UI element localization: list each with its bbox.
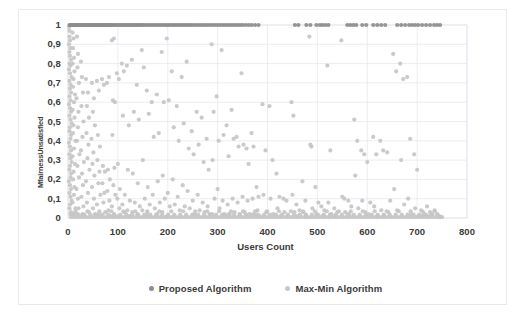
x-tick-label: 100 [98, 226, 138, 237]
data-point [72, 116, 76, 120]
data-point [235, 200, 239, 204]
data-point [175, 104, 179, 108]
data-point [256, 212, 260, 216]
data-point [154, 212, 158, 216]
data-point [76, 110, 80, 114]
data-point [325, 209, 329, 213]
data-point [388, 212, 392, 216]
x-tick-label: 600 [347, 226, 387, 237]
data-point [267, 104, 271, 108]
data-point [337, 209, 341, 213]
data-point [100, 212, 104, 216]
data-point [76, 125, 80, 129]
data-point [265, 209, 269, 213]
data-point [217, 139, 221, 143]
data-point [166, 212, 170, 216]
data-point [250, 212, 254, 216]
data-point [208, 212, 212, 216]
data-point [173, 202, 177, 206]
data-point [207, 168, 211, 172]
data-point [355, 139, 359, 143]
data-point [274, 172, 278, 176]
data-point [178, 212, 182, 216]
data-point [181, 209, 185, 213]
data-point [130, 58, 134, 62]
data-point [75, 164, 79, 168]
data-point [69, 90, 73, 94]
data-point [364, 212, 368, 216]
data-point [359, 148, 363, 152]
data-point [406, 197, 410, 201]
data-point [101, 164, 105, 168]
data-point [400, 212, 404, 216]
data-point [77, 175, 81, 179]
legend-item[interactable]: Proposed Algorithm [149, 283, 252, 294]
data-point [399, 158, 403, 162]
data-point [420, 23, 424, 27]
data-point [117, 206, 121, 210]
data-point [107, 199, 111, 203]
data-point [95, 158, 99, 162]
data-point [432, 209, 436, 213]
data-point [216, 187, 220, 191]
data-point [79, 60, 83, 64]
data-point [70, 212, 74, 216]
data-point [166, 191, 170, 195]
data-point [84, 179, 88, 183]
data-point [256, 195, 260, 199]
data-point [100, 77, 104, 81]
data-point [81, 119, 85, 123]
data-point [72, 69, 76, 73]
data-point [188, 206, 192, 210]
data-point [296, 23, 300, 27]
data-point [112, 166, 116, 170]
data-point [70, 62, 74, 66]
data-point [132, 110, 136, 114]
data-point [238, 212, 242, 216]
data-point [157, 131, 161, 135]
data-point [101, 200, 105, 204]
data-point [68, 54, 72, 58]
data-point [71, 77, 75, 81]
data-point [81, 204, 85, 208]
data-point [246, 162, 250, 166]
data-point [113, 193, 117, 197]
data-point [67, 179, 71, 183]
data-point [435, 212, 439, 216]
data-point [77, 81, 81, 85]
data-point [364, 23, 368, 27]
data-point [84, 77, 88, 81]
legend-item[interactable]: Max-Min Algorithm [285, 283, 382, 294]
data-point [147, 112, 151, 116]
data-point [328, 148, 332, 152]
data-point [105, 189, 109, 193]
data-point [192, 152, 196, 156]
data-point [388, 199, 392, 203]
data-point [71, 170, 75, 174]
x-tick-label: 700 [397, 226, 437, 237]
data-point [397, 209, 401, 213]
data-point [254, 185, 258, 189]
data-point [376, 212, 380, 216]
data-point [160, 50, 164, 54]
data-point [79, 104, 83, 108]
data-point [394, 69, 398, 73]
data-point [241, 143, 245, 147]
data-point [108, 177, 112, 181]
y-tick-label: 0,1 [35, 193, 61, 204]
data-point [379, 23, 383, 27]
data-point [349, 209, 353, 213]
data-point [158, 200, 162, 204]
data-point [378, 139, 382, 143]
data-point [98, 193, 102, 197]
data-point [225, 123, 229, 127]
data-point [358, 212, 362, 216]
data-point [310, 212, 314, 216]
data-point [236, 144, 240, 148]
x-tick-label: 400 [248, 226, 288, 237]
gridlines [68, 25, 467, 218]
data-point [340, 212, 344, 216]
x-axis-title: Users Count [0, 241, 531, 252]
data-point [409, 209, 413, 213]
data-point [277, 195, 281, 199]
